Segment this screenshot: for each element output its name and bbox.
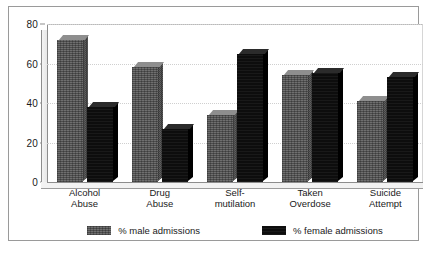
bar-front-face (162, 129, 188, 182)
bar-top-face (359, 96, 389, 101)
female-series-swatch (262, 226, 286, 235)
legend-item-female: % female admissions (262, 225, 383, 236)
bar-front-face (237, 54, 263, 182)
bar-top-face (164, 124, 194, 129)
axis-baseline (47, 182, 423, 183)
x-axis-label-line: Suicide (369, 187, 402, 198)
bar-male (357, 101, 383, 182)
legend-item-male: % male admissions (87, 225, 200, 236)
y-tick-label: 20 (26, 137, 38, 148)
bar-male (207, 115, 233, 182)
bar-side-face (113, 102, 118, 181)
bar-male (57, 40, 83, 182)
bar-front-face (312, 73, 338, 182)
bar-side-face (188, 124, 193, 181)
bar-front-face (87, 107, 113, 182)
bar-group (57, 24, 113, 182)
y-tick-mark (40, 24, 45, 25)
x-axis-label-line: mutilation (215, 198, 256, 209)
chart-frame: 020406080 AlcoholAbuseDrugAbuseSelf-muti… (8, 6, 419, 241)
x-axis-label-line: Attempt (369, 198, 402, 209)
x-axis-label-line: Abuse (146, 198, 173, 209)
bar-female (312, 73, 338, 182)
bar-front-face (132, 67, 158, 182)
bar-front-face (282, 75, 308, 182)
x-axis-label-line: Self- (215, 187, 256, 198)
bar-front-face (387, 77, 413, 182)
bar-top-face (88, 102, 118, 107)
x-axis-label-line: Overdose (290, 198, 331, 209)
bar-group (207, 24, 263, 182)
bar-top-face (314, 68, 344, 73)
legend-label-female: % female admissions (293, 225, 383, 236)
x-axis-label: Self-mutilation (215, 187, 256, 209)
legend-label-male: % male admissions (118, 225, 200, 236)
bar-side-face (338, 68, 343, 181)
bar-female (162, 129, 188, 182)
x-axis-labels: AlcoholAbuseDrugAbuseSelf-mutilationTake… (47, 187, 423, 217)
bar-female (237, 54, 263, 182)
male-series-swatch (87, 226, 111, 235)
bar-male (282, 75, 308, 182)
bar-top-face (209, 110, 239, 115)
y-tick-label: 40 (26, 98, 38, 109)
x-axis-label-line: Alcohol (69, 187, 100, 198)
y-tick-label: 80 (26, 19, 38, 30)
x-axis-label: AlcoholAbuse (69, 187, 100, 209)
bar-front-face (207, 115, 233, 182)
x-axis-label-line: Taken (290, 187, 331, 198)
bar-top-face (58, 35, 88, 40)
x-axis-label-line: Drug (146, 187, 173, 198)
y-tick-label: 60 (26, 58, 38, 69)
x-axis-label: DrugAbuse (146, 187, 173, 209)
bar-top-face (239, 49, 269, 54)
bar-top-face (134, 62, 164, 67)
chart-legend: % male admissions % female admissions (47, 221, 423, 239)
plot-depth-wall (41, 30, 47, 188)
x-axis-label: TakenOverdose (290, 187, 331, 209)
bar-chart: 020406080 AlcoholAbuseDrugAbuseSelf-muti… (0, 0, 427, 255)
bar-female (87, 107, 113, 182)
x-axis-label: SuicideAttempt (369, 187, 402, 209)
plot-area (47, 24, 423, 182)
bar-top-face (284, 70, 314, 75)
x-axis-label-line: Abuse (69, 198, 100, 209)
y-tick-label: 0 (32, 177, 38, 188)
bar-group (357, 24, 413, 182)
bar-female (387, 77, 413, 182)
bar-front-face (357, 101, 383, 182)
bar-front-face (57, 40, 83, 182)
bar-male (132, 67, 158, 182)
bar-side-face (263, 49, 268, 181)
bar-side-face (413, 72, 418, 181)
bar-group (282, 24, 338, 182)
bar-group (132, 24, 188, 182)
bar-top-face (389, 72, 419, 77)
